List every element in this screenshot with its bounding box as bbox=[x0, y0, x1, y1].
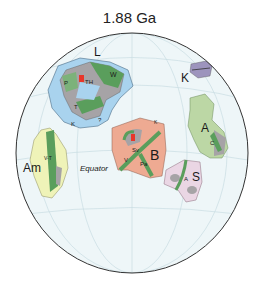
equator-label: Equator bbox=[80, 164, 108, 173]
label-p: P bbox=[64, 80, 68, 86]
label-laurentia: L bbox=[94, 45, 101, 59]
label-vt: V-T bbox=[44, 155, 52, 161]
label-sarmatia: S bbox=[192, 170, 200, 184]
label-australia: A bbox=[201, 121, 209, 135]
label-t: T bbox=[74, 104, 78, 110]
label-a-sarmatia: A bbox=[184, 176, 188, 182]
label-th: TH bbox=[85, 79, 93, 85]
label-kalahari: K bbox=[181, 71, 189, 85]
label-amazonia: Am bbox=[23, 161, 41, 175]
label-c: C bbox=[210, 140, 215, 146]
label-k-laurentia: K bbox=[71, 121, 75, 127]
globe-map: L P TH W T K ? K A C B Sv V Pa K Am V-T bbox=[0, 0, 259, 287]
label-sv: Sv bbox=[132, 147, 139, 153]
label-baltica: B bbox=[150, 147, 159, 163]
label-v: V bbox=[124, 157, 128, 163]
label-w: W bbox=[110, 71, 117, 78]
label-pa: Pa bbox=[140, 161, 148, 167]
